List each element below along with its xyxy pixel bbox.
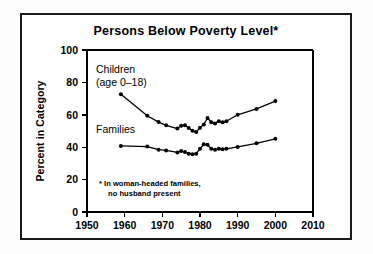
families-data-point <box>221 147 225 151</box>
footnote-line-1: * In woman-headed families, <box>99 179 201 188</box>
families-data-point <box>236 145 240 149</box>
families-data-point <box>255 141 259 145</box>
y-tick-label-20: 20 <box>66 173 78 185</box>
x-tick-label-1990: 1990 <box>226 219 250 231</box>
y-tick-label-60: 60 <box>66 109 78 121</box>
footnote-line-2: no husband present <box>108 189 181 198</box>
children-line <box>121 94 275 132</box>
families-data-point <box>187 152 191 156</box>
families-data-point <box>164 148 168 152</box>
children-data-point <box>157 120 161 124</box>
series-families <box>119 137 277 157</box>
x-tick-label-2000: 2000 <box>264 219 288 231</box>
children-data-point <box>145 114 149 118</box>
families-data-point <box>179 149 183 153</box>
children-series-label-line1: Children <box>96 63 135 75</box>
x-tick-label-2010: 2010 <box>301 219 325 231</box>
children-data-point <box>190 129 194 133</box>
poverty-chart-figure: Persons Below Poverty Level* 02040608010… <box>0 0 373 254</box>
page-title: Persons Below Poverty Level* <box>94 24 279 38</box>
children-data-point <box>213 121 217 125</box>
y-tick-label-0: 0 <box>72 206 78 218</box>
families-data-point <box>183 150 187 154</box>
x-axis-tick-labels: 1950196019701980199020002010 <box>75 219 325 231</box>
families-data-point <box>198 147 202 151</box>
children-series-label-line2: (age 0–18) <box>96 76 147 88</box>
children-data-point <box>224 119 228 123</box>
families-data-point <box>202 142 206 146</box>
families-data-point <box>119 144 123 148</box>
families-data-point <box>175 150 179 154</box>
x-tick-label-1970: 1970 <box>151 219 175 231</box>
children-data-point <box>198 126 202 130</box>
families-line <box>121 139 275 155</box>
children-data-point <box>206 116 210 120</box>
children-data-point <box>164 123 168 127</box>
children-data-point <box>179 124 183 128</box>
y-tick-label-80: 80 <box>66 76 78 88</box>
children-data-point <box>217 119 221 123</box>
families-series-label: Families <box>96 123 135 135</box>
families-data-point <box>224 147 228 151</box>
children-markers <box>119 92 277 134</box>
x-tick-label-1980: 1980 <box>188 219 212 231</box>
children-data-point <box>209 120 213 124</box>
families-data-point <box>157 148 161 152</box>
x-tick-label-1950: 1950 <box>75 219 99 231</box>
children-data-point <box>221 120 225 124</box>
children-data-point <box>183 123 187 127</box>
families-data-point <box>273 137 277 141</box>
chart-canvas: Persons Below Poverty Level* 02040608010… <box>0 0 373 254</box>
children-data-point <box>273 99 277 103</box>
children-data-point <box>202 123 206 127</box>
children-data-point <box>175 127 179 131</box>
families-data-point <box>194 152 198 156</box>
children-data-point <box>236 113 240 117</box>
y-tick-label-40: 40 <box>66 141 78 153</box>
families-data-point <box>145 145 149 149</box>
families-data-point <box>190 152 194 156</box>
children-data-point <box>194 130 198 134</box>
y-axis-tick-labels: 020406080100 <box>60 44 78 218</box>
families-data-point <box>206 143 210 147</box>
families-data-point <box>217 147 221 151</box>
children-data-point <box>187 126 191 130</box>
y-tick-label-100: 100 <box>60 44 78 56</box>
y-axis-title: Percent in Category <box>34 80 46 181</box>
families-data-point <box>213 148 217 152</box>
x-tick-label-1960: 1960 <box>113 219 137 231</box>
children-data-point <box>255 107 259 111</box>
series-children <box>119 92 277 134</box>
children-data-point <box>119 92 123 96</box>
families-data-point <box>209 147 213 151</box>
